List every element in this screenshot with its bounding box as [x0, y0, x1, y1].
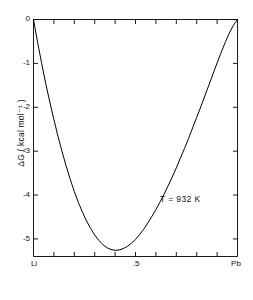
tick-marks — [34, 20, 238, 257]
delta-g-curve — [34, 20, 238, 251]
axis-frame — [34, 20, 238, 257]
figure-canvas: ΔG ( kcal mol⁻¹ ) 0 -1 -2 -3 -4 -5 Li .5… — [0, 0, 253, 300]
frame-box — [34, 20, 238, 257]
plot-area — [0, 0, 253, 300]
